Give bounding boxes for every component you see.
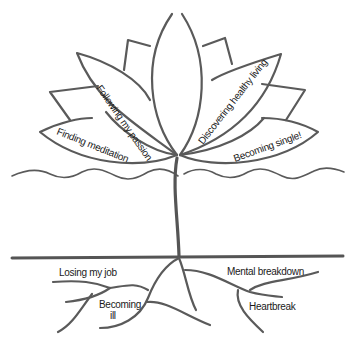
label-mental-breakdown: Mental breakdown [227,266,304,277]
far-left-back-petal [50,86,98,120]
root-center [179,258,196,310]
back-left-petal [124,40,150,70]
back-right-petal [203,38,232,64]
label-ill: ill [110,310,116,321]
label-becoming: Becoming [99,299,141,310]
center-petal [152,14,202,155]
label-heartbreak: Heartbreak [249,301,297,312]
lotus-diagram: Following my passion Discovering healthy… [0,0,355,345]
far-right-back-petal [262,84,305,120]
lotus-stem [175,158,179,256]
root-left-branch-job [53,281,148,290]
root-left-branch-lower [147,302,210,325]
label-losing-my-job: Losing my job [59,267,118,278]
water-surface [12,168,344,179]
